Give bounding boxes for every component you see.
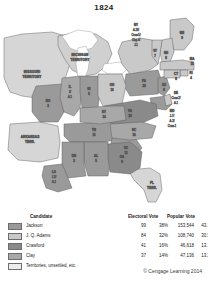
svg-text:TERRITORY: TERRITORY	[22, 75, 42, 79]
svg-text:Craw-1: Craw-1	[168, 124, 177, 128]
legend-swatch	[8, 243, 22, 250]
state-shape-florida-territory	[128, 168, 162, 202]
copyright-notice: © Cengage Learning 2014	[0, 268, 202, 274]
svg-text:J-3/: J-3/	[52, 175, 57, 179]
svg-text:VT: VT	[153, 49, 157, 53]
legend-electoral-votes: 41	[128, 243, 146, 248]
svg-text:NH: NH	[164, 51, 168, 55]
svg-text:KY: KY	[102, 110, 106, 114]
svg-text:MD: MD	[170, 109, 175, 113]
svg-text:A-3/: A-3/	[170, 119, 175, 123]
svg-text:3/: 3/	[69, 90, 71, 94]
legend-header-candidate: Candidate	[30, 214, 52, 219]
state-shape-al	[84, 142, 110, 176]
legend-popular-pct: 30.5%	[196, 233, 208, 238]
legend-popular-pct: 43.1%	[196, 223, 208, 228]
svg-text:MS: MS	[72, 154, 76, 158]
svg-text:OH: OH	[110, 83, 114, 87]
map-canvas: MISSOURI TERRITORY MICHIGAN TERRITORY AR…	[0, 12, 208, 212]
legend-row: Crawford 41 16% 46,618 13.1%	[8, 242, 208, 251]
svg-text:FL: FL	[150, 181, 154, 185]
legend-header-popular: Popular Vote	[167, 214, 195, 219]
legend-swatch	[8, 223, 22, 230]
svg-text:A-26/: A-26/	[133, 28, 139, 32]
svg-text:ARKANSAS: ARKANSAS	[21, 135, 40, 139]
state-shape-ri	[180, 70, 188, 76]
svg-text:A-1: A-1	[68, 95, 73, 99]
legend: Candidate Electoral Vote Popular Vote Ja…	[0, 214, 208, 274]
svg-text:NY: NY	[134, 23, 138, 27]
legend-electoral-votes: 37	[128, 253, 146, 258]
svg-text:NJ: NJ	[162, 83, 166, 87]
svg-text:4: 4	[190, 76, 192, 80]
state-shape-in	[80, 76, 100, 108]
svg-text:TERRITORY: TERRITORY	[70, 58, 90, 62]
svg-text:TN: TN	[92, 128, 96, 132]
legend-row: Clay 37 14% 47,136 13.2%	[8, 252, 208, 261]
svg-text:15: 15	[132, 133, 136, 137]
legend-candidate-name: J. Q. Adams	[26, 233, 51, 238]
svg-text:MISSOURI: MISSOURI	[24, 70, 41, 74]
legend-electoral-pct: 32%	[150, 233, 168, 238]
electoral-map-figure: 1824	[0, 0, 208, 283]
legend-electoral-pct: 38%	[150, 223, 168, 228]
legend-header-electoral: Electoral Vote	[128, 214, 158, 219]
svg-text:16: 16	[110, 88, 114, 92]
legend-popular-votes: 153,544	[168, 223, 194, 228]
legend-candidate-name: Crawford	[26, 243, 44, 248]
legend-popular-pct: 13.2%	[196, 253, 208, 258]
legend-candidate-name: Jackson	[26, 223, 43, 228]
legend-popular-votes: 47,136	[168, 253, 194, 258]
svg-text:MA: MA	[190, 57, 195, 61]
state-shape-ma	[160, 60, 194, 70]
svg-text:A-2: A-2	[52, 180, 57, 184]
svg-text:MICHIGAN: MICHIGAN	[72, 53, 89, 57]
legend-electoral-pct: 16%	[150, 243, 168, 248]
legend-swatch	[8, 233, 22, 240]
svg-text:AL: AL	[94, 154, 98, 158]
svg-text:RI: RI	[190, 71, 193, 75]
svg-text:Craw-2/: Craw-2/	[171, 96, 180, 100]
svg-text:Craw-5/: Craw-5/	[131, 33, 140, 37]
figure-title: 1824	[0, 3, 208, 12]
svg-text:ME: ME	[180, 31, 184, 35]
legend-swatch	[8, 253, 22, 260]
svg-text:MO: MO	[46, 99, 51, 103]
svg-text:Clay-4/: Clay-4/	[132, 38, 140, 42]
svg-text:28: 28	[142, 84, 146, 88]
state-shape-nh	[160, 38, 174, 62]
svg-text:J-1: J-1	[134, 43, 138, 47]
svg-text:14: 14	[102, 115, 106, 119]
svg-text:11: 11	[124, 151, 127, 155]
legend-electoral-votes: 99	[128, 223, 146, 228]
legend-candidate-name: Clay	[26, 253, 35, 258]
svg-text:TERR.: TERR.	[25, 140, 35, 144]
svg-text:CT: CT	[174, 72, 178, 76]
svg-text:A-1: A-1	[174, 101, 179, 105]
svg-text:IL: IL	[69, 85, 72, 89]
legend-popular-votes: 108,740	[168, 233, 194, 238]
svg-text:IN: IN	[88, 87, 91, 91]
legend-row: Jackson 99 38% 153,544 43.1%	[8, 222, 208, 231]
svg-text:TERR.: TERR.	[147, 186, 157, 190]
svg-text:24: 24	[128, 114, 132, 118]
svg-text:11: 11	[92, 133, 95, 137]
legend-popular-pct: 13.1%	[196, 243, 208, 248]
svg-text:15: 15	[190, 62, 194, 66]
legend-popular-votes: 46,618	[168, 243, 194, 248]
svg-text:J-7/: J-7/	[170, 114, 175, 118]
legend-electoral-votes: 84	[128, 233, 146, 238]
svg-text:DE: DE	[174, 91, 178, 95]
legend-row: J. Q. Adams 84 32% 108,740 30.5%	[8, 232, 208, 241]
legend-electoral-pct: 14%	[150, 253, 168, 258]
